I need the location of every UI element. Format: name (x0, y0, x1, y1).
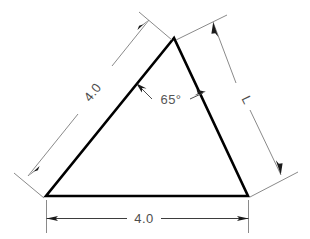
right-extension-line-bottom (250, 172, 298, 197)
right-arrowhead-top (211, 22, 218, 37)
left-dimension-label: 4.0 (81, 80, 105, 104)
bottom-dimension-group: 4.0 (47, 200, 249, 233)
triangle-path (46, 38, 248, 196)
triangle-outline (46, 38, 248, 196)
apex-angle-group: 65° (136, 83, 206, 107)
angle-arrowhead-left (136, 83, 146, 92)
right-dimension-line-upper-segment (213, 22, 236, 83)
left-dimension-group: 4.0 (14, 12, 172, 198)
left-dimension-line-upper-segment (112, 20, 149, 66)
right-extension-line-top (176, 15, 227, 40)
apex-angle-label: 65° (161, 92, 182, 107)
left-extension-line-bottom (14, 173, 44, 198)
right-dimension-label: L (239, 93, 256, 106)
left-arrowhead-bottom (28, 166, 39, 176)
triangle-dimension-diagram: 4.0 4.0 (0, 0, 310, 239)
right-dimension-line-lower-segment (250, 110, 281, 175)
right-arrowhead-bottom (276, 160, 283, 175)
left-arrowhead-top (137, 20, 148, 30)
technical-drawing-canvas: 4.0 4.0 (0, 0, 310, 239)
bottom-dimension-label: 4.0 (134, 211, 153, 226)
